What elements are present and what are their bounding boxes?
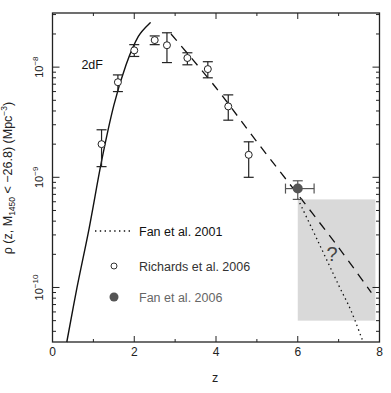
question-mark-annotation: ? <box>326 243 337 265</box>
ylabel-sub: 1450 <box>7 197 17 216</box>
data-point <box>129 45 139 57</box>
x-axis-label: z <box>212 371 218 385</box>
ylabel-open: (z, M <box>1 216 15 247</box>
qso-density-chart: 02468 10−1010−910−8 2dF ? z Fan et al. 2… <box>0 0 391 393</box>
svg-text:10−10: 10−10 <box>31 274 45 300</box>
legend-label-richards-2006: Richards et al. 2006 <box>139 260 250 274</box>
x-tick-label: 4 <box>213 345 220 359</box>
data-point <box>162 33 172 63</box>
data-point <box>285 181 314 200</box>
y-tick-label: 10−9 <box>31 166 45 188</box>
legend-filled-circle-icon <box>110 293 119 302</box>
data-point <box>203 62 213 78</box>
y-axis-label: ρ (z, M1450 < −26.8) (Mpc−3) <box>0 102 17 254</box>
y-tick-label: 10−10 <box>31 274 45 300</box>
legend: Fan et al. 2001 Richards et al. 2006 Fan… <box>95 225 250 305</box>
ylabel-sup: −3 <box>0 106 9 116</box>
x-tick-label: 8 <box>376 345 383 359</box>
x-tick-label: 6 <box>294 345 301 359</box>
x-tick-label: 0 <box>49 345 56 359</box>
data-point <box>97 130 107 167</box>
x-axis-tick-labels: 02468 <box>49 345 383 359</box>
ylabel-mid: < −26.8) (Mpc <box>1 116 15 197</box>
svg-text:10−8: 10−8 <box>31 56 45 78</box>
legend-label-fan-2006: Fan et al. 2006 <box>139 291 222 305</box>
legend-label-fan-2001: Fan et al. 2001 <box>139 225 222 239</box>
data-point <box>150 36 160 45</box>
ylabel-rho: ρ <box>1 247 15 254</box>
data-point <box>182 53 192 65</box>
svg-text:10−9: 10−9 <box>31 166 45 188</box>
ylabel-close: ) <box>1 102 15 106</box>
curve-label-2df: 2dF <box>81 58 103 72</box>
y-axis-tick-labels: 10−1010−910−8 <box>31 56 45 300</box>
x-tick-label: 2 <box>131 345 138 359</box>
legend-open-circle-icon <box>111 263 117 269</box>
data-point <box>244 142 254 177</box>
y-tick-label: 10−8 <box>31 56 45 78</box>
